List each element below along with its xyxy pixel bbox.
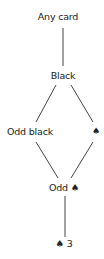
node-any-card: Any card	[38, 11, 78, 22]
edge-black-spade	[71, 85, 93, 122]
node-odd-black: Odd black	[7, 126, 53, 137]
node-odd-spade: Odd ♠	[49, 182, 79, 193]
node-spade: ♠	[92, 126, 100, 137]
edge-odd-black-odd-spade	[36, 142, 58, 178]
node-spade-3: ♠ 3	[56, 238, 73, 249]
edge-black-odd-black	[36, 85, 56, 122]
node-black: Black	[51, 70, 76, 81]
edge-spade-odd-spade	[71, 142, 93, 178]
